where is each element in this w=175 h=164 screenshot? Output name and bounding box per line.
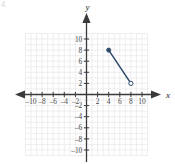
y-axis-label: y (85, 2, 90, 12)
y-axis-arrow-up (82, 13, 90, 23)
y-tick-label: 6 (79, 57, 83, 66)
x-tick-label: 8 (129, 97, 133, 106)
y-tick-label: –4 (74, 112, 83, 121)
y-tick-label: 4 (79, 68, 83, 77)
x-tick-label: 6 (118, 97, 122, 106)
endpoint-filled-dot (107, 48, 111, 52)
y-tick-label: –2 (74, 101, 83, 110)
x-tick-label: –6 (49, 97, 58, 106)
y-tick-label: 2 (79, 79, 83, 88)
axes (15, 13, 161, 162)
coordinate-plane-graph: –10–8–6–4–2246810108642–2–4–6–8–10 xy (0, 0, 175, 164)
x-tick-label: 2 (96, 97, 100, 106)
coordinate-plane-figure: 4. –10–8–6–4–2246810108642–2–4–6–8–10 xy (0, 0, 175, 164)
x-tick-label: 4 (107, 97, 111, 106)
y-tick-label: 10 (75, 35, 83, 44)
y-tick-label: –8 (74, 135, 83, 144)
y-tick-label: –10 (70, 146, 82, 155)
x-tick-label: –10 (24, 97, 36, 106)
x-axis-label: x (165, 90, 170, 100)
x-axis-arrow-right (151, 90, 161, 98)
y-tick-label: –6 (74, 123, 83, 132)
x-tick-label: 10 (138, 97, 146, 106)
x-tick-label: –4 (60, 97, 69, 106)
x-axis-arrow-left (15, 90, 25, 98)
endpoint-open-circle (129, 81, 133, 85)
y-tick-label: 8 (79, 46, 83, 55)
x-tick-label: –8 (37, 97, 46, 106)
